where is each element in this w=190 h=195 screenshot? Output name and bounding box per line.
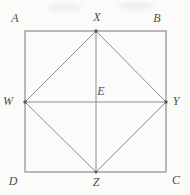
label-corner-c: C: [172, 174, 180, 186]
label-midpoint-z: Z: [93, 176, 100, 188]
label-corner-b: B: [153, 12, 160, 24]
label-midpoint-y: Y: [173, 95, 180, 107]
vertex-dot-z: [95, 171, 98, 174]
label-midpoint-x: X: [93, 11, 100, 23]
label-corner-a: A: [11, 12, 18, 24]
vertex-dot-y: [164, 100, 167, 103]
vertex-dot-x: [94, 29, 97, 32]
label-midpoint-w: W: [3, 95, 13, 107]
label-corner-d: D: [9, 175, 18, 187]
vertex-dot-w: [23, 100, 26, 103]
diagram-canvas: [0, 0, 190, 195]
label-center-e: E: [97, 85, 104, 97]
geometry-figure: A X B W E Y D Z C: [0, 0, 190, 195]
